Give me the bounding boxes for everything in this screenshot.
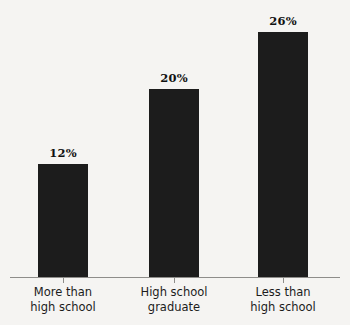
x-axis-tick [63,278,64,283]
plot-area: 12% 20% 26% [0,0,350,277]
label-line: high school [3,300,123,315]
bar[interactable] [38,164,88,277]
x-axis-tick [174,278,175,283]
x-axis-label-less-than-high-school: Less than high school [223,285,343,315]
x-axis-tick [283,278,284,283]
bar-value-label: 26% [238,14,328,28]
label-line: Less than [223,285,343,300]
x-axis-label-more-than-high-school: More than high school [3,285,123,315]
bar[interactable] [149,89,199,277]
x-axis-line [10,277,340,278]
label-line: High school [114,285,234,300]
label-line: More than [3,285,123,300]
x-axis-label-high-school-graduate: High school graduate [114,285,234,315]
label-line: graduate [114,300,234,315]
bar-value-label: 12% [18,146,108,160]
bar-chart: 12% 20% 26% More than high school High s… [0,0,350,325]
label-line: high school [223,300,343,315]
bar-value-label: 20% [129,71,219,85]
bar[interactable] [258,32,308,277]
